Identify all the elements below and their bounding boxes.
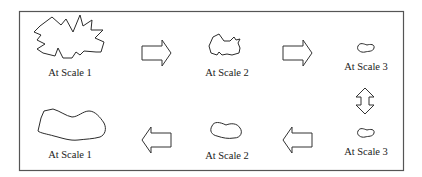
- right-arrow-icon: [142, 40, 171, 66]
- large-blob-icon: [38, 109, 105, 140]
- scale-diagram: At Scale 1 At Scale 2 At Scale 3 At Scal…: [0, 0, 422, 177]
- small-blob-icon: [358, 44, 375, 53]
- bottom-scale-1-label: At Scale 1: [48, 149, 92, 160]
- left-arrow-icon: [283, 127, 312, 153]
- top-scale-2-label: At Scale 2: [205, 67, 249, 78]
- jagged-shape-icon: [34, 15, 104, 58]
- bottom-scale-1-group: At Scale 1: [38, 109, 105, 160]
- bottom-scale-3-label: At Scale 3: [344, 146, 388, 157]
- top-scale-3-label: At Scale 3: [344, 61, 388, 72]
- top-scale-3-group: At Scale 3: [344, 44, 388, 72]
- bottom-scale-2-group: At Scale 2: [205, 123, 249, 162]
- left-arrow-icon: [142, 127, 171, 153]
- small-blob-icon: [358, 129, 375, 138]
- bottom-scale-3-group: At Scale 3: [344, 129, 388, 157]
- right-arrow-icon: [283, 40, 312, 66]
- bottom-scale-2-label: At Scale 2: [205, 150, 249, 161]
- medium-blob-icon: [211, 123, 242, 139]
- top-scale-2-group: At Scale 2: [205, 34, 249, 78]
- top-scale-1-label: At Scale 1: [48, 67, 92, 78]
- double-vertical-arrow-icon: [356, 88, 374, 114]
- partially-smoothed-shape-icon: [209, 34, 240, 55]
- top-scale-1-group: At Scale 1: [34, 15, 104, 78]
